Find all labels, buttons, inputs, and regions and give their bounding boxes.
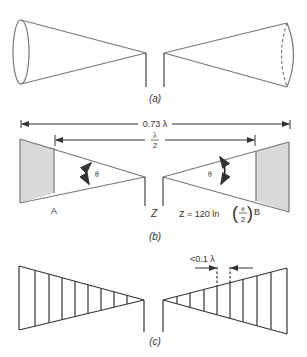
feed-impedance-label: Z	[150, 208, 158, 219]
right-element: θ B	[163, 142, 289, 217]
formula-prefix: Z = 120 ln	[179, 209, 219, 219]
formula-frac-den: 2	[241, 215, 246, 224]
left-element: θ A	[20, 139, 145, 216]
angle-theta-right: θ	[208, 170, 212, 179]
caption-a: (a)	[149, 93, 161, 104]
biconical-antenna-figure: (a) 0.73 λ λ 2	[0, 0, 307, 357]
right-cone	[164, 23, 294, 87]
left-cone	[13, 20, 146, 87]
point-a-label: A	[51, 206, 57, 216]
left-wire-grid	[19, 266, 144, 332]
formula-paren-open: (	[232, 203, 238, 223]
caption-b: (b)	[149, 231, 161, 242]
caption-c: (c)	[149, 336, 161, 347]
dimension-half-num: λ	[153, 131, 157, 140]
panel-a: (a)	[13, 20, 294, 104]
dimension-total-label: 0.73 λ	[143, 119, 168, 129]
formula-paren-close: )	[247, 203, 253, 223]
dimension-half-den: 2	[153, 141, 158, 150]
right-wire-grid	[163, 267, 287, 334]
impedance-formula: Z = 120 ln ( θ 2 )	[179, 203, 253, 224]
spacing-label: <0.1 λ	[190, 254, 215, 264]
angle-theta-left: θ	[95, 170, 99, 179]
panel-b: 0.73 λ λ 2 θ A	[20, 119, 290, 242]
point-b-label: B	[254, 207, 260, 217]
panel-c: <0.1 λ (c)	[19, 254, 287, 347]
formula-frac-num: θ	[241, 205, 245, 213]
